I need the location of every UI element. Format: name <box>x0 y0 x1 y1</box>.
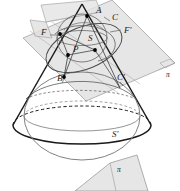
label-F-prime: F' <box>123 25 132 35</box>
label-pi-bottom: π <box>117 165 121 174</box>
detached-plane-pi <box>75 155 148 191</box>
label-F: F <box>40 27 47 37</box>
geometry-diagram-svg: A C F F' S P B C' S' π π <box>0 0 180 191</box>
point-B <box>62 75 66 79</box>
label-C-prime: C' <box>117 72 126 82</box>
figure-canvas: A C F F' S P B C' S' π π <box>0 0 180 191</box>
label-A: A <box>95 5 102 15</box>
label-S: S <box>88 33 93 43</box>
point-F <box>58 32 62 36</box>
point-A <box>85 14 89 18</box>
point-Fprime <box>93 48 97 52</box>
label-P: P <box>72 44 79 54</box>
label-pi-top: π <box>166 70 170 79</box>
label-B: B <box>57 73 63 83</box>
label-C: C <box>112 12 119 22</box>
point-P <box>66 53 70 57</box>
label-S-prime: S' <box>112 129 120 139</box>
